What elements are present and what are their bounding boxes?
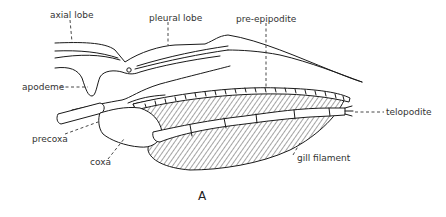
trilobite-appendage-diagram: axial lobe pleural lobe pre-epipodite ap… bbox=[0, 0, 446, 217]
label-pleural-lobe: pleural lobe bbox=[149, 13, 203, 23]
label-pre-epipodite: pre-epipodite bbox=[236, 14, 297, 24]
articulation-boss bbox=[127, 68, 131, 72]
label-telopodite: telopodite bbox=[386, 107, 432, 117]
precoxa-shape bbox=[57, 103, 104, 124]
label-gill-filament: gill filament bbox=[297, 153, 351, 163]
label-axial-lobe: axial lobe bbox=[50, 10, 94, 20]
label-coxa: coxa bbox=[90, 157, 111, 167]
panel-label: A bbox=[198, 189, 207, 203]
label-precoxa: precoxa bbox=[32, 134, 68, 144]
label-apodeme: apodeme bbox=[22, 82, 65, 92]
